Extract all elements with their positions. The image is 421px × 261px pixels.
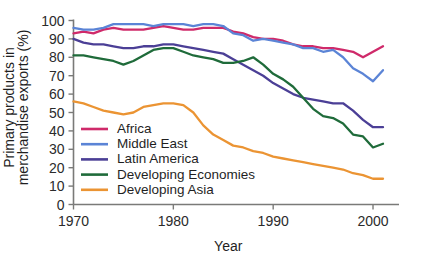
chart-figure: 0102030405060708090100 1970198019902000 … <box>0 0 421 261</box>
y-axis-tick-label: 50 <box>49 105 65 121</box>
y-axis-tick-label: 60 <box>49 86 65 102</box>
y-axis-tick-label: 100 <box>41 13 65 29</box>
x-axis-title: Year <box>214 238 243 254</box>
y-axis-tick-group: 0102030405060708090100 <box>41 13 73 213</box>
y-axis-tick-label: 20 <box>49 160 65 176</box>
chart-legend: AfricaMiddle EastLatin AmericaDeveloping… <box>81 121 255 197</box>
legend-label-0: Africa <box>117 121 152 136</box>
legend-label-1: Middle East <box>117 136 188 151</box>
x-axis-tick-label: 1990 <box>258 213 289 229</box>
y-axis-tick-label: 0 <box>57 197 65 213</box>
line-chart-canvas: 0102030405060708090100 1970198019902000 … <box>0 0 421 261</box>
legend-label-4: Developing Asia <box>117 182 214 197</box>
x-axis-tick-label: 1980 <box>158 213 189 229</box>
legend-label-2: Latin America <box>117 151 199 166</box>
legend-label-3: Developing Economies <box>117 167 255 182</box>
x-axis-tick-group: 1970198019902000 <box>58 205 389 229</box>
y-axis-tick-label: 70 <box>49 68 65 84</box>
series-line-middle-east <box>74 24 384 81</box>
x-axis-tick-label: 2000 <box>357 213 388 229</box>
y-axis-tick-label: 90 <box>49 31 65 47</box>
y-axis-tick-label: 40 <box>49 123 65 139</box>
y-axis-tick-label: 80 <box>49 49 65 65</box>
x-axis-tick-label: 1970 <box>58 213 89 229</box>
y-axis-tick-label: 30 <box>49 141 65 157</box>
y-axis-tick-label: 10 <box>49 178 65 194</box>
y-axis-title-line2: merchandise exports (%) <box>15 30 31 186</box>
